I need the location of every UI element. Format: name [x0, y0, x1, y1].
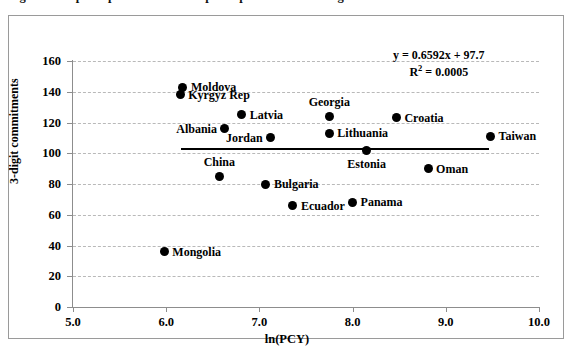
x-tick-mark	[446, 307, 447, 312]
y-tick-label: 40	[49, 238, 62, 253]
scatter-point	[362, 146, 371, 155]
r-squared-line: R2 = 0.0005	[343, 63, 534, 80]
x-tick-label: 9.0	[438, 315, 454, 330]
point-label: Lithuania	[337, 127, 388, 139]
scatter-point	[261, 180, 270, 189]
scatter-point	[288, 201, 297, 210]
x-axis-line	[72, 307, 540, 308]
scatter-point	[392, 113, 401, 122]
regression-equation-line: y = 0.6592x + 97.7	[343, 48, 534, 63]
y-tick-label: 80	[49, 177, 62, 192]
y-tick-label: 100	[42, 146, 61, 161]
x-axis-title: ln(PCY)	[9, 332, 565, 347]
point-label: Bulgaria	[274, 178, 319, 190]
x-tick-label: 8.0	[345, 315, 361, 330]
x-tick-mark	[353, 307, 354, 312]
y-tick-label: 140	[42, 84, 61, 99]
point-label: Panama	[361, 196, 403, 208]
x-tick-mark	[73, 307, 74, 312]
r-squared-value: = 0.0005	[422, 65, 468, 79]
point-label: Oman	[436, 163, 468, 175]
point-label: Croatia	[404, 112, 443, 124]
figure-frame: 020406080100120140160 5.06.07.08.09.010.…	[8, 15, 564, 339]
scatter-point	[266, 133, 275, 142]
x-tick-label: 10.0	[528, 315, 550, 330]
point-label: Estonia	[347, 158, 386, 170]
plot-area: MoldovaKyrgyz RepLatviaAlbaniaJordanGeor…	[73, 61, 539, 307]
scatter-point	[215, 172, 224, 181]
y-tick-label: 20	[49, 269, 62, 284]
y-tick-label: 160	[42, 54, 61, 69]
point-label: Ecuador	[301, 200, 345, 212]
scatter-point	[325, 129, 334, 138]
scatter-point	[486, 132, 495, 141]
point-label: China	[204, 156, 235, 168]
x-tick-mark	[166, 307, 167, 312]
point-label: Kyrgyz Rep	[188, 89, 250, 101]
y-tick-label: 60	[49, 207, 62, 222]
regression-trendline	[181, 148, 489, 151]
scatter-point	[325, 112, 334, 121]
point-label: Latvia	[250, 109, 283, 121]
point-label: Jordan	[226, 132, 263, 144]
point-label: Georgia	[309, 96, 350, 108]
regression-equation-annotation: y = 0.6592x + 97.7 R2 = 0.0005	[343, 48, 534, 80]
scatter-point	[160, 247, 169, 256]
scatter-point	[237, 110, 246, 119]
point-label: Taiwan	[499, 130, 537, 142]
y-axis-title: 3-digit commitments	[7, 78, 22, 184]
x-tick-label: 5.0	[65, 315, 81, 330]
x-tick-label: 6.0	[158, 315, 174, 330]
scatter-point	[176, 90, 185, 99]
scatter-point	[348, 198, 357, 207]
y-tick-label: 0	[55, 300, 61, 315]
point-label: Mongolia	[172, 246, 221, 258]
point-label: Albania	[176, 123, 217, 135]
x-tick-mark	[259, 307, 260, 312]
figure-caption-strip: Figure 3. Export specialization and per …	[0, 0, 574, 13]
scatter-point	[424, 164, 433, 173]
r-squared-prefix: R	[409, 65, 418, 79]
figure-caption-text: Figure 3. Export specialization and per …	[8, 0, 461, 4]
x-tick-label: 7.0	[252, 315, 268, 330]
y-tick-label: 120	[42, 115, 61, 130]
x-tick-mark	[539, 307, 540, 312]
